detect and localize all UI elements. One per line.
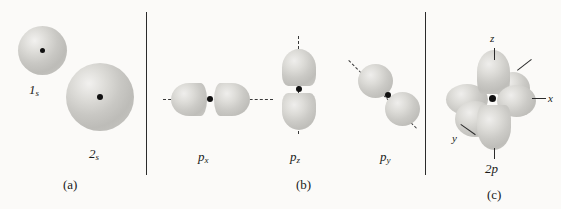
2s-orbital-label: 2s <box>89 147 99 162</box>
2p-nucleus-dot <box>489 95 496 102</box>
panel-a-caption: (a) <box>63 178 77 191</box>
panel-divider-left <box>146 12 147 175</box>
axis-z-label: z <box>490 33 494 44</box>
px-nucleus-dot <box>207 96 213 102</box>
1s-orbital-label: 1s <box>29 83 39 98</box>
py-lobe-lower <box>385 92 420 126</box>
py-orbital-label: py <box>380 150 391 165</box>
py-nucleus-dot <box>385 92 391 98</box>
orbital-figure: 1s 2s (a) px pz py <box>0 0 561 209</box>
panel-divider-right <box>425 12 426 175</box>
panel-b-caption: (b) <box>296 178 311 191</box>
2p-label-leader-line <box>494 148 495 159</box>
px-lobe-left <box>171 83 207 116</box>
axis-back-leader-line <box>517 59 532 71</box>
axis-z-leader-line <box>494 48 495 60</box>
axis-y-label: y <box>452 133 457 144</box>
axis-x-leader-line <box>532 98 546 99</box>
px-lobe-right <box>214 83 250 116</box>
pz-orbital-label: pz <box>290 150 300 165</box>
pz-lobe-bottom <box>282 93 316 130</box>
panel-c-caption: (c) <box>487 188 501 201</box>
2p-orbital-label: 2p <box>485 162 498 175</box>
axis-x-label: x <box>548 93 553 104</box>
pz-lobe-top <box>282 49 316 86</box>
1s-nucleus-dot <box>40 48 45 53</box>
2p-lobe-bottom <box>477 105 511 150</box>
2s-nucleus-dot <box>97 94 103 100</box>
pz-nucleus-dot <box>296 86 302 92</box>
px-orbital-label: px <box>198 150 209 165</box>
